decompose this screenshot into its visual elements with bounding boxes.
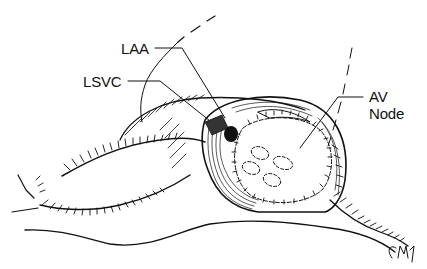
vessel-branch [12, 175, 38, 212]
label-av-node-line1: AV [369, 89, 388, 104]
label-laa: LAA [121, 41, 149, 56]
heart-drawing [0, 0, 427, 269]
label-av-node-line2: Node [369, 106, 404, 121]
atrial-flap [258, 110, 310, 122]
lsvc-orifice [224, 126, 238, 142]
av-node-leader-line [300, 97, 363, 148]
atrial-wall-hatching [125, 95, 204, 168]
pulmonary-vein-ovals [240, 144, 294, 188]
lower-body-outline [25, 221, 395, 252]
laa-leader-line [155, 48, 225, 118]
anatomical-illustration: LAA LSVC AV Node [0, 0, 427, 269]
vessel-lower-edge [40, 175, 190, 210]
vessel-hatching [36, 133, 177, 215]
suture-ticks [232, 110, 332, 204]
septal-patch [235, 118, 332, 203]
right-vessel-edge [330, 200, 408, 246]
artist-signature [389, 246, 414, 262]
label-lsvc: LSVC [83, 74, 121, 89]
dashed-outline-top [178, 16, 215, 42]
